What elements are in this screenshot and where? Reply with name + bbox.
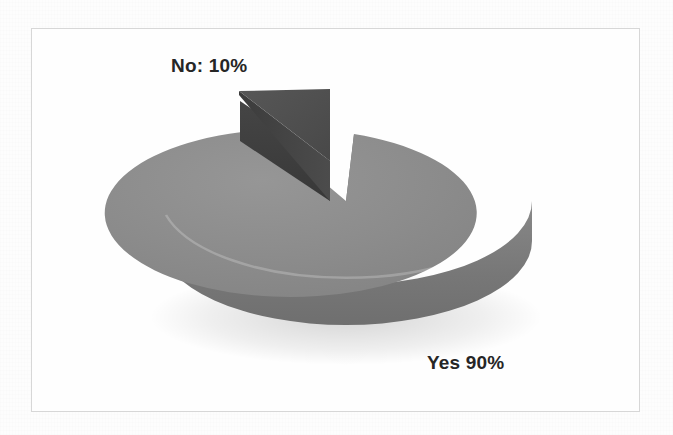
pie-chart-plot-area: No: 10% Yes 90%: [32, 29, 641, 413]
pie-chart-graphic: [32, 29, 641, 413]
chart-frame: No: 10% Yes 90%: [31, 28, 640, 412]
pie-label-yes: Yes 90%: [427, 352, 504, 374]
pie-label-no: No: 10%: [171, 55, 247, 77]
scanned-page-background: No: 10% Yes 90%: [0, 0, 673, 435]
